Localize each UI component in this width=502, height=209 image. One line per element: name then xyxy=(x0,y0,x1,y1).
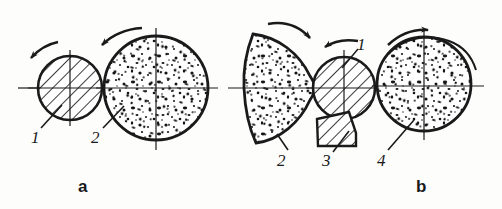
panel-a-rotation-arrow-part-1 xyxy=(31,42,58,58)
diagram-canvas xyxy=(0,0,502,209)
panel-b-rotation-arrow-part-2 xyxy=(268,23,310,38)
panel-b-rotation-arrow-part-1 xyxy=(325,40,358,47)
panel-a-part-number-1: 1 xyxy=(31,129,40,146)
technical-diagram-figure: a b 1 2 1 2 3 4 xyxy=(0,0,502,209)
panel-b-part-number-3: 3 xyxy=(322,152,331,169)
panel-a-part-2-speckled-workpiece xyxy=(96,28,218,150)
panel-b-leader-2 xyxy=(277,134,288,150)
panel-label-a: a xyxy=(78,178,87,195)
panel-b-part-number-2: 2 xyxy=(277,152,286,169)
panel-a-group xyxy=(18,28,218,150)
panel-b-part-4-speckled-workpiece xyxy=(372,30,484,140)
panel-b-group xyxy=(228,23,484,152)
panel-a-part-number-2: 2 xyxy=(91,129,100,146)
panel-b-part-3-hatched-tool xyxy=(317,112,356,146)
panel-label-b: b xyxy=(416,178,426,195)
panel-b-part-2-speckled-crescent xyxy=(228,34,318,143)
panel-b-part-number-4: 4 xyxy=(377,152,386,169)
panel-b-part-number-1: 1 xyxy=(357,36,366,53)
